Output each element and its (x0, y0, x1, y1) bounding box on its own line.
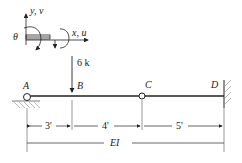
dimension-lines (27, 126, 224, 143)
y-axis-label: y, v (30, 6, 43, 16)
fixed-support-icon (224, 80, 231, 108)
span-ab-length: 3' (45, 121, 52, 131)
rotation-label: θ (13, 32, 18, 42)
span-bc-length: 4' (102, 121, 109, 131)
x-axis-label: x, u (72, 28, 86, 38)
beam-diagram (0, 0, 242, 163)
load-label: 6 k (77, 58, 90, 68)
node-label-b: B (77, 81, 83, 91)
node-label-d: D (211, 80, 218, 90)
node-label-a: A (23, 81, 29, 91)
span-cd-length: 5' (176, 121, 183, 131)
hinge-icon (139, 93, 145, 99)
node-label-c: C (145, 80, 152, 90)
stiffness-label: EI (110, 138, 119, 148)
